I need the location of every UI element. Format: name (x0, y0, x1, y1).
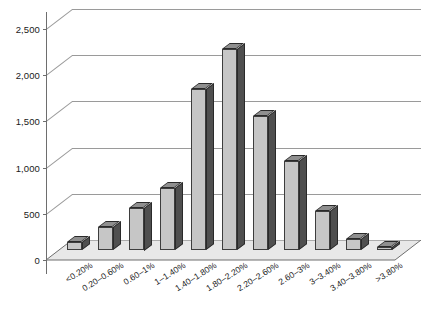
bar (346, 239, 360, 250)
bar-front-face (346, 239, 360, 250)
bar-side-face (175, 182, 183, 250)
gridline (72, 194, 421, 195)
gridline-riser (46, 194, 73, 215)
gridline (72, 55, 421, 56)
bar-side-face (268, 110, 276, 250)
bar (160, 188, 174, 250)
y-axis-tick-label: 2,000 (16, 70, 40, 81)
bar-side-face (237, 43, 245, 250)
bar-front-face (377, 247, 391, 250)
gridline-riser (46, 9, 73, 30)
bar-side-face (299, 155, 307, 250)
gridline-riser (46, 55, 73, 76)
y-axis-tick-label: 2,500 (16, 24, 40, 35)
y-axis-tick (43, 168, 46, 169)
bar-front-face (160, 188, 174, 250)
bar (98, 227, 112, 250)
bar (315, 211, 329, 250)
y-axis-tick (43, 214, 46, 215)
gridline-riser (46, 148, 73, 169)
bar (284, 161, 298, 250)
bar-front-face (253, 116, 267, 250)
bar-side-face (330, 205, 338, 250)
bar (191, 89, 205, 250)
y-axis-tick-label: 1,000 (16, 162, 40, 173)
gridline (72, 9, 421, 10)
bar-front-face (98, 227, 112, 250)
y-axis-tick (43, 121, 46, 122)
bar (67, 242, 81, 250)
bar-front-face (222, 49, 236, 250)
bar (253, 116, 267, 250)
bar-front-face (129, 208, 143, 251)
bar-chart: 05001,0001,5002,0002,500 <0.20%0.20–0.60… (0, 0, 433, 322)
bar-side-face (144, 201, 152, 250)
bar-front-face (315, 211, 329, 250)
y-axis-tick-label: 500 (24, 208, 40, 219)
plot-area (46, 12, 421, 274)
bar-front-face (284, 161, 298, 250)
bar-front-face (191, 89, 205, 250)
y-axis-tick (43, 75, 46, 76)
gridline-riser (46, 101, 73, 122)
bar (377, 247, 391, 250)
bar-side-face (206, 83, 214, 250)
gridline (72, 101, 421, 102)
bar (222, 49, 236, 250)
y-axis-line (46, 12, 47, 274)
y-axis-tick-label: 0 (35, 255, 40, 266)
bar (129, 208, 143, 251)
bar-front-face (67, 242, 81, 250)
y-axis-tick (43, 29, 46, 30)
y-axis-tick-label: 1,500 (16, 116, 40, 127)
gridline (72, 148, 421, 149)
y-axis: 05001,0001,5002,0002,500 (0, 0, 40, 322)
